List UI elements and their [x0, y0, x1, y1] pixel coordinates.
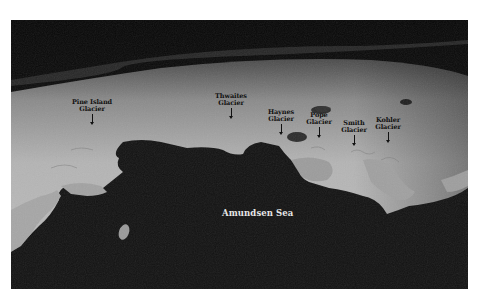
label-line: Glacier	[341, 126, 367, 134]
arrow-down-icon	[388, 132, 389, 141]
kohler-glacier-label: Kohler Glacier	[370, 117, 406, 141]
arrow-down-icon	[231, 108, 232, 117]
pine-island-glacier-label: Pine Island Glacier	[69, 99, 115, 123]
label-line: Glacier	[79, 105, 105, 113]
label-line: Glacier	[268, 115, 294, 123]
label-line: Glacier	[375, 123, 401, 131]
thwaites-glacier-label: Thwaites Glacier	[211, 93, 251, 117]
arrow-down-icon	[354, 135, 355, 144]
arrow-down-icon	[281, 124, 282, 133]
terrain-graphic	[11, 20, 468, 289]
satellite-image: Pine Island Glacier Thwaites Glacier Hay…	[11, 20, 468, 289]
arrow-down-icon	[92, 114, 93, 123]
arrow-down-icon	[319, 127, 320, 136]
haynes-glacier-label: Haynes Glacier	[263, 109, 299, 133]
label-line: Glacier	[218, 99, 244, 107]
pope-glacier-label: Pope Glacier	[303, 112, 335, 136]
amundsen-sea-label: Amundsen Sea	[222, 208, 293, 218]
label-line: Glacier	[306, 118, 332, 126]
smith-glacier-label: Smith Glacier	[337, 120, 371, 144]
